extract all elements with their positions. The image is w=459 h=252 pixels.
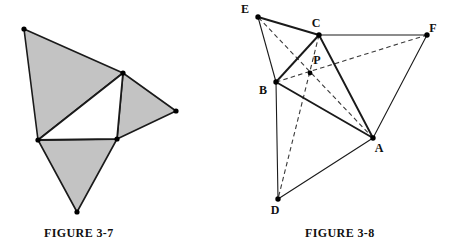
- figure-board: FIGURE 3-7 ABCDEFP FIGURE 3-8: [0, 0, 459, 252]
- vertex-dot-outer-bottom: [74, 209, 79, 214]
- vertex-labels-group: ABCDEFP: [241, 2, 437, 217]
- vertex-dot-A: [370, 135, 375, 140]
- figure-3-8-drawing: ABCDEFP: [225, 0, 459, 225]
- segment-D-A: [278, 138, 373, 199]
- vertex-label-P: P: [313, 53, 320, 67]
- vertex-label-A: A: [375, 141, 384, 155]
- vertex-label-C: C: [312, 16, 321, 30]
- vertex-label-B: B: [259, 83, 267, 97]
- shaded-triangle-3: [38, 139, 117, 212]
- vertex-label-D: D: [271, 203, 280, 217]
- vertex-dot-outer-right: [173, 108, 178, 113]
- solid-lines-group: [258, 17, 427, 199]
- cevian-dashed-lines-group: [258, 17, 427, 199]
- vertex-dot-C: [316, 32, 321, 37]
- vertex-dot-outer-top-left: [21, 26, 26, 31]
- segment-E-B: [258, 17, 276, 82]
- vertex-dot-E: [255, 14, 260, 19]
- vertex-dot-P: [308, 71, 313, 76]
- vertex-dot-inner-right: [114, 136, 119, 141]
- vertex-dot-inner-top: [120, 70, 125, 75]
- segment-F-A: [373, 35, 427, 138]
- shaded-triangle-2: [117, 73, 176, 139]
- segment-B-D: [276, 82, 278, 199]
- vertex-dot-inner-left: [35, 137, 40, 142]
- figure-3-7-caption: FIGURE 3-7: [44, 226, 114, 241]
- vertex-dot-D: [275, 196, 280, 201]
- figure-3-8-caption: FIGURE 3-8: [305, 226, 375, 241]
- vertex-label-E: E: [241, 2, 249, 16]
- figure-3-7-drawing: [0, 0, 225, 225]
- vertex-dot-B: [273, 79, 278, 84]
- vertex-label-F: F: [429, 21, 436, 35]
